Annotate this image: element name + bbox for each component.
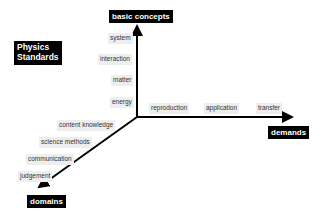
item-matter: matter xyxy=(111,75,133,86)
item-application: application xyxy=(204,103,239,114)
title-line-2: Standards xyxy=(17,53,59,63)
basic-concepts-label: basic concepts xyxy=(109,10,173,23)
item-content-knowledge: content knowledge xyxy=(57,120,115,131)
item-energy: energy xyxy=(110,97,134,108)
domains-label: domains xyxy=(27,195,66,208)
item-communication: communication xyxy=(26,154,74,165)
item-science-methods: science methods xyxy=(39,137,92,148)
item-reproduction: reproduction xyxy=(149,103,189,114)
demands-label: demands xyxy=(268,126,309,139)
item-interaction: interaction xyxy=(98,54,132,65)
physics-standards-label: Physics Standards xyxy=(14,41,62,65)
item-transfer: transfer xyxy=(256,103,282,114)
item-judgement: judgement xyxy=(18,171,52,182)
item-system: system xyxy=(108,33,133,44)
